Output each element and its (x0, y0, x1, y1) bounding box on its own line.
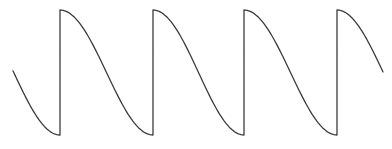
waveform-path (13, 10, 383, 135)
waveform-figure (0, 0, 392, 149)
waveform-svg (0, 0, 392, 149)
